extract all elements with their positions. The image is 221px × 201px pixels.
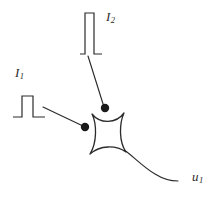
label-output-1-symbol: u xyxy=(192,169,199,184)
label-input-1: I1 xyxy=(15,66,24,79)
connector-i2-to-synapse xyxy=(88,56,104,107)
label-input-1-subscript: 1 xyxy=(19,71,24,81)
input-pulse-1-trace xyxy=(13,96,45,117)
axon-output-curve xyxy=(123,149,178,181)
label-input-2-subscript: 2 xyxy=(110,15,115,25)
synapse-dot-1 xyxy=(81,123,89,131)
label-input-2: I2 xyxy=(106,10,115,23)
label-output-1-subscript: 1 xyxy=(199,175,204,185)
input-pulse-2-trace xyxy=(80,13,102,54)
diagram-canvas xyxy=(0,0,221,201)
label-output-1: u1 xyxy=(192,170,203,183)
neuron-diagram: I1 I2 u1 xyxy=(0,0,221,201)
connector-i1-to-synapse xyxy=(43,107,83,126)
synapse-dot-2 xyxy=(101,104,109,112)
neuron-cell-body xyxy=(90,113,126,154)
